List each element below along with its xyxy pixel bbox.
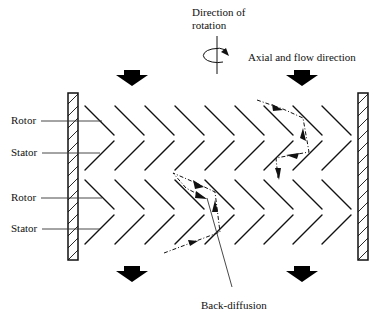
flow-arrow-icon-bottom-right: [286, 266, 318, 282]
arrowhead-icon: [188, 240, 198, 246]
stator-label-2: Stator: [11, 222, 38, 234]
arrowhead-icon: [272, 104, 283, 111]
arrowhead-icon: [300, 128, 306, 141]
rotor-blade-row-1: [85, 106, 351, 135]
blade-array: [85, 106, 351, 244]
rotor-blade-row-2: [85, 180, 351, 209]
flow-arrow-icon-bottom-left: [116, 266, 148, 282]
rotor-label-1: Rotor: [11, 114, 36, 126]
mixing-path-upper-right: [257, 100, 309, 180]
stator-label-1: Stator: [11, 146, 38, 158]
back-diffusion-leader-line: [207, 198, 232, 287]
rotor-label-2: Rotor: [11, 191, 36, 203]
right-column-wall: [358, 93, 368, 260]
mixing-column-diagram: Direction of rotation Axial and flow dir…: [0, 0, 376, 324]
back-diffusion-label: Back-diffusion: [201, 299, 267, 311]
arrowhead-icon: [193, 180, 204, 189]
arrowhead-icon: [212, 200, 218, 212]
arrowhead-icon: [195, 191, 207, 199]
flow-arrow-icon-top-right: [286, 70, 318, 86]
axial-flow-direction-label: Axial and flow direction: [248, 51, 356, 63]
direction-of-rotation-label-line1: Direction of: [192, 6, 246, 18]
flow-arrow-icon-top-left: [116, 70, 148, 86]
direction-of-rotation-label-line2: rotation: [192, 19, 227, 31]
rotation-icon: [203, 36, 229, 74]
arrowhead-icon: [275, 168, 281, 180]
left-column-wall: [68, 93, 78, 260]
stator-blade-row-1: [85, 141, 351, 170]
